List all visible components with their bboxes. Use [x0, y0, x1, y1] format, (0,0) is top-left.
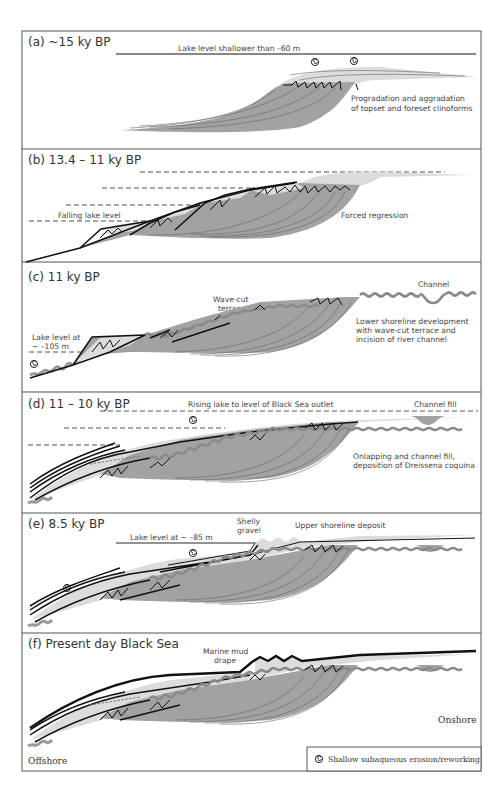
annotation: Wave-cut	[213, 295, 249, 304]
annotation: with wave-cut terrace and	[356, 326, 456, 335]
annotation: drape	[214, 656, 236, 665]
annotation: Onlapping and channel fill,	[353, 452, 455, 461]
annotation: Progradation and aggradation	[351, 94, 465, 103]
panel-a: (a) ~15 ky BP Lake level shallower than …	[28, 35, 478, 132]
panel-b-label: (b) 13.4 – 11 ky BP	[28, 153, 141, 167]
panel-e-label: (e) 8.5 ky BP	[28, 517, 104, 531]
onshore-label: Onshore	[438, 715, 477, 725]
annotation: gravel	[237, 526, 261, 535]
annotation: Lower shoreline development	[356, 317, 468, 326]
annotation: Marine mud	[203, 647, 249, 656]
channel-label: Channel	[418, 280, 449, 289]
annotation: incision of river channel	[356, 335, 447, 344]
annotation: deposition of Dreissena coquina	[353, 461, 475, 470]
legend-text: Shallow subaqueous erosion/reworking	[328, 755, 480, 764]
legend: Shallow subaqueous erosion/reworking	[307, 747, 481, 771]
panel-a-label: (a) ~15 ky BP	[28, 35, 111, 49]
annotation: Falling lake level	[58, 211, 121, 220]
panel-b: (b) 13.4 – 11 ky BP Falling lake level F…	[26, 153, 475, 262]
annotation: Lake level at	[32, 333, 80, 342]
panel-e: (e) 8.5 ky BP Shelly gravel Upper shorel…	[28, 517, 475, 626]
erosion-symbol	[350, 57, 357, 64]
panel-c-label: (c) 11 ky BP	[28, 270, 100, 284]
erosion-symbol	[311, 58, 318, 65]
channel-fill-label: Channel fill	[414, 400, 457, 409]
panel-f-label: (f) Present day Black Sea	[28, 637, 179, 651]
annotation: Upper shoreline deposit	[295, 521, 386, 530]
erosion-symbol	[189, 549, 196, 556]
annotation: Rising lake to level of Black Sea outlet	[188, 400, 333, 409]
panel-c: (c) 11 ky BP Channel Wave-cut terrace La…	[28, 270, 476, 378]
erosion-symbol	[189, 416, 196, 423]
lake-level-label: Lake level shallower than –60 m	[178, 44, 300, 53]
erosion-symbol	[30, 360, 37, 367]
stratigraphy-figure: (a) ~15 ky BP Lake level shallower than …	[0, 0, 503, 802]
offshore-label: Offshore	[28, 756, 67, 766]
panel-d: (d) 11 – 10 ky BP Rising lake to level o…	[28, 397, 478, 503]
annotation: ~ –105 m	[32, 342, 69, 351]
annotation: Forced regression	[341, 211, 409, 220]
annotation: Shelly	[237, 517, 261, 526]
lake-level-label: Lake level at ~ –85 m	[130, 533, 213, 542]
annotation: of topset and foreset clinoforms	[351, 104, 472, 113]
panel-d-label: (d) 11 – 10 ky BP	[28, 397, 130, 411]
